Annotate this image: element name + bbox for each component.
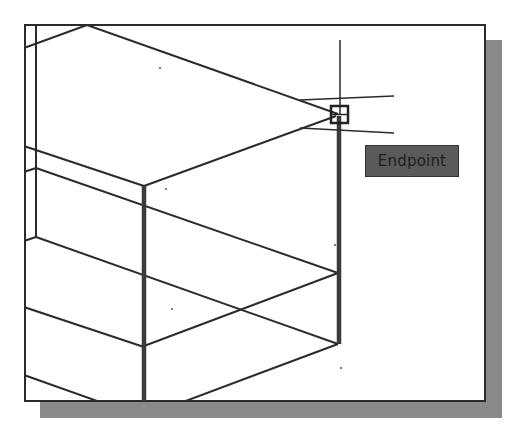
- wireframe-line: [144, 273, 338, 346]
- wireframe-line: [24, 307, 144, 347]
- wireframe-line: [24, 375, 100, 402]
- wireframe-line: [183, 344, 338, 402]
- wireframe-line: [24, 168, 36, 172]
- wireframe-line: [24, 237, 36, 241]
- wireframe-line: [144, 116, 336, 186]
- crosshair-iso-axis-icon: [300, 96, 394, 100]
- wireframe-lines: [24, 24, 338, 402]
- grid-dot: [334, 244, 336, 246]
- wireframe-line: [24, 25, 87, 48]
- crosshair-iso-axis-icon: [300, 128, 394, 133]
- grid-dot: [171, 308, 173, 310]
- wireframe-edges-highlighted: [144, 116, 339, 402]
- wireframe-line: [24, 146, 144, 186]
- osnap-tooltip: Endpoint: [365, 145, 459, 177]
- autocad-screenshot: Endpoint: [0, 0, 527, 438]
- grid-dot: [165, 188, 167, 190]
- crosshair-cursor: [300, 40, 394, 133]
- osnap-tooltip-label: Endpoint: [378, 152, 446, 170]
- grid-dots: [159, 67, 342, 369]
- grid-dot: [159, 67, 161, 69]
- drawing-canvas[interactable]: [0, 0, 527, 438]
- grid-dot: [340, 367, 342, 369]
- wireframe-line: [36, 168, 338, 273]
